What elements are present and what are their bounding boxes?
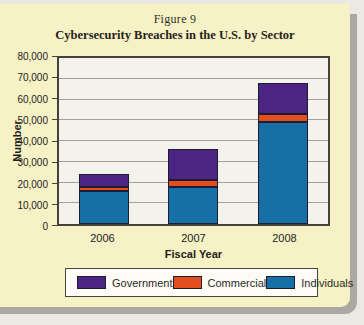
legend-swatch-commercial xyxy=(173,276,202,289)
bar-segment-2006-individuals xyxy=(79,191,129,224)
x-axis-labels: 200620072008 xyxy=(57,232,330,244)
title-block: Figure 9 Cybersecurity Breaches in the U… xyxy=(0,12,350,43)
figure-panel: Figure 9 Cybersecurity Breaches in the U… xyxy=(0,4,350,307)
bar-segment-2008-government xyxy=(258,83,308,114)
bar-segment-2006-government xyxy=(79,174,129,186)
y-tick-label: 70,000 xyxy=(17,72,48,83)
page: { "figure": { "label": "Figure 9", "titl… xyxy=(0,0,364,325)
y-tick-label: 50,000 xyxy=(17,114,48,125)
y-tick-label: 30,000 xyxy=(17,157,48,168)
y-tick-label: 10,000 xyxy=(17,199,48,210)
bar-segment-2007-government xyxy=(168,149,218,180)
x-label-2008: 2008 xyxy=(260,232,310,244)
legend-item-individuals: Individuals xyxy=(266,276,353,289)
bar-segment-2008-commercial xyxy=(258,114,308,122)
legend-swatch-individuals xyxy=(266,276,295,289)
legend-label: Commercial xyxy=(208,277,267,289)
bar-2007 xyxy=(168,58,218,224)
y-tick-label: 80,000 xyxy=(17,51,48,62)
y-axis: 010,00020,00030,00040,00050,00060,00070,… xyxy=(0,56,57,226)
bar-2008 xyxy=(258,58,308,224)
x-axis-title: Fiscal Year xyxy=(57,248,330,260)
legend-swatch-government xyxy=(77,276,106,289)
bar-segment-2008-individuals xyxy=(258,122,308,224)
bars-container xyxy=(59,58,328,224)
bar-2006 xyxy=(79,58,129,224)
plot-area xyxy=(57,56,330,226)
legend-label: Government xyxy=(112,277,173,289)
figure-label: Figure 9 xyxy=(0,12,350,27)
legend-item-government: Government xyxy=(77,276,173,289)
x-label-2007: 2007 xyxy=(169,232,219,244)
legend: GovernmentCommercialIndividuals xyxy=(65,268,318,297)
legend-item-commercial: Commercial xyxy=(173,276,267,289)
y-tick-label: 20,000 xyxy=(17,178,48,189)
y-tick-label: 60,000 xyxy=(17,93,48,104)
x-label-2006: 2006 xyxy=(78,232,128,244)
y-tick-label: 40,000 xyxy=(17,136,48,147)
legend-label: Individuals xyxy=(301,277,353,289)
y-tick-label: 0 xyxy=(42,221,48,232)
chart-title: Cybersecurity Breaches in the U.S. by Se… xyxy=(0,28,350,43)
bar-segment-2007-individuals xyxy=(168,187,218,224)
